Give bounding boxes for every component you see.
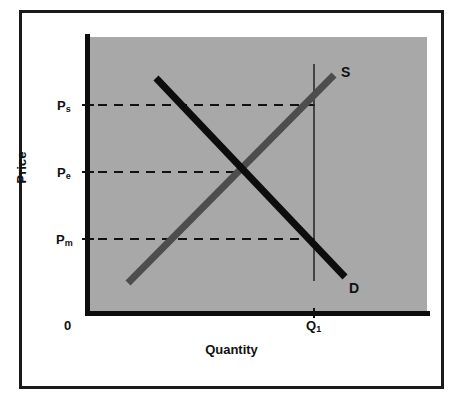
y-tick-label-price-market: Pm — [56, 232, 73, 247]
plot-canvas — [88, 37, 427, 313]
figure-root: Ps Pe Pm 0 Q1 S D Quantity Price — [0, 0, 463, 403]
y-axis-title: Price — [14, 138, 29, 198]
supply-curve-label: S — [341, 64, 350, 80]
y-tick-label-price-equilibrium: Pe — [57, 165, 71, 180]
x-tick-label-quantity-one: Q1 — [306, 318, 321, 333]
y-axis — [85, 34, 90, 316]
demand-curve-label: D — [349, 280, 359, 296]
origin-label: 0 — [64, 318, 71, 333]
x-axis — [85, 311, 430, 316]
y-tick-label-price-support: Ps — [57, 98, 71, 113]
x-axis-title: Quantity — [0, 342, 463, 357]
